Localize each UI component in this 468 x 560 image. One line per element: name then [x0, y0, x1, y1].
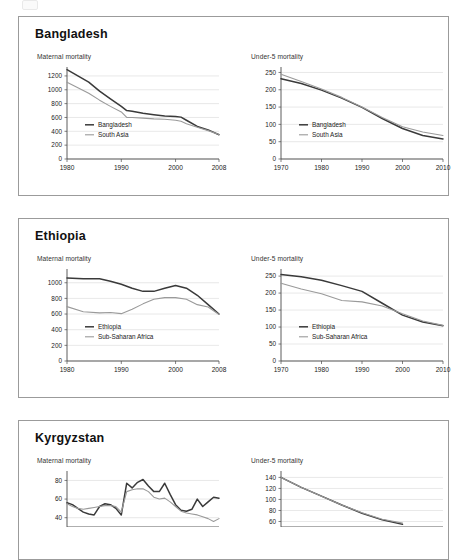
- svg-text:1000: 1000: [48, 86, 63, 93]
- svg-text:200: 200: [265, 289, 276, 296]
- svg-text:60: 60: [269, 518, 277, 525]
- svg-text:120: 120: [265, 485, 276, 492]
- svg-text:800: 800: [51, 100, 62, 107]
- chart-under5-mortality: Under-5 mortality 0501001502002501970198…: [249, 53, 454, 181]
- chart-caption: Maternal mortality: [37, 457, 230, 464]
- svg-text:100: 100: [265, 323, 276, 330]
- svg-text:250: 250: [265, 272, 276, 279]
- svg-text:140: 140: [265, 474, 276, 481]
- svg-text:South Asia: South Asia: [98, 131, 129, 138]
- svg-text:2000: 2000: [395, 164, 410, 171]
- svg-text:1970: 1970: [274, 164, 289, 171]
- svg-text:50: 50: [269, 138, 277, 145]
- chart-canvas: 6080100120140: [249, 467, 454, 527]
- svg-text:2000: 2000: [395, 366, 410, 373]
- svg-text:Ethiopia: Ethiopia: [312, 323, 336, 331]
- svg-text:Bangladesh: Bangladesh: [312, 121, 346, 129]
- svg-text:1990: 1990: [355, 366, 370, 373]
- svg-text:150: 150: [265, 306, 276, 313]
- svg-text:200: 200: [265, 86, 276, 93]
- svg-text:1000: 1000: [48, 279, 63, 286]
- svg-text:400: 400: [51, 326, 62, 333]
- svg-text:1990: 1990: [114, 366, 129, 373]
- panel-title: Kyrgyzstan: [35, 431, 104, 445]
- svg-text:400: 400: [51, 128, 62, 135]
- svg-text:0: 0: [58, 357, 62, 364]
- svg-text:1200: 1200: [48, 72, 63, 79]
- chart-maternal-mortality: Maternal mortality 406080: [35, 457, 230, 527]
- svg-text:100: 100: [265, 121, 276, 128]
- svg-text:2000: 2000: [168, 164, 183, 171]
- svg-text:1980: 1980: [60, 366, 75, 373]
- svg-text:2008: 2008: [212, 366, 227, 373]
- svg-text:1990: 1990: [355, 164, 370, 171]
- svg-text:80: 80: [269, 507, 277, 514]
- svg-text:Sub-Saharan Africa: Sub-Saharan Africa: [312, 333, 368, 340]
- svg-text:2000: 2000: [168, 366, 183, 373]
- svg-text:1990: 1990: [114, 164, 129, 171]
- svg-text:250: 250: [265, 69, 276, 76]
- chart-under5-mortality: Under-5 mortality 6080100120140: [249, 457, 454, 527]
- svg-text:2010: 2010: [436, 164, 451, 171]
- svg-text:0: 0: [272, 155, 276, 162]
- svg-text:60: 60: [55, 495, 63, 502]
- panel-title: Ethiopia: [35, 229, 86, 243]
- svg-text:1980: 1980: [60, 164, 75, 171]
- country-panel-kyrgyzstan: Kyrgyzstan Maternal mortality 406080 Und…: [18, 420, 449, 560]
- svg-text:1970: 1970: [274, 366, 289, 373]
- svg-text:200: 200: [51, 141, 62, 148]
- page-top-clipped-mark: [22, 0, 38, 10]
- chart-caption: Under-5 mortality: [251, 457, 454, 464]
- svg-text:40: 40: [55, 514, 63, 521]
- svg-text:2010: 2010: [436, 366, 451, 373]
- svg-text:1980: 1980: [314, 164, 329, 171]
- svg-text:80: 80: [55, 477, 63, 484]
- panel-title: Bangladesh: [35, 27, 108, 41]
- chart-canvas: 05010015020025019701980199020002010Ethio…: [249, 265, 454, 383]
- svg-text:0: 0: [58, 155, 62, 162]
- svg-text:600: 600: [51, 114, 62, 121]
- svg-text:600: 600: [51, 310, 62, 317]
- chart-maternal-mortality: Maternal mortality 020040060080010001200…: [35, 53, 230, 181]
- chart-canvas: 0200400600800100012001980199020002008Ban…: [35, 63, 230, 181]
- svg-text:150: 150: [265, 103, 276, 110]
- svg-text:2008: 2008: [212, 164, 227, 171]
- chart-caption: Under-5 mortality: [251, 53, 454, 60]
- svg-text:Ethiopia: Ethiopia: [98, 323, 122, 331]
- svg-text:South Asia: South Asia: [312, 131, 343, 138]
- chart-under5-mortality: Under-5 mortality 0501001502002501970198…: [249, 255, 454, 383]
- svg-text:800: 800: [51, 295, 62, 302]
- chart-caption: Under-5 mortality: [251, 255, 454, 262]
- chart-canvas: 406080: [35, 467, 230, 527]
- svg-text:200: 200: [51, 342, 62, 349]
- svg-text:1980: 1980: [314, 366, 329, 373]
- chart-caption: Maternal mortality: [37, 255, 230, 262]
- svg-text:Sub-Saharan Africa: Sub-Saharan Africa: [98, 333, 154, 340]
- svg-text:0: 0: [272, 357, 276, 364]
- svg-text:Bangladesh: Bangladesh: [98, 121, 132, 129]
- svg-text:100: 100: [265, 496, 276, 503]
- svg-text:50: 50: [269, 340, 277, 347]
- chart-canvas: 05010015020025019701980199020002010Bangl…: [249, 63, 454, 181]
- country-panel-ethiopia: Ethiopia Maternal mortality 020040060080…: [18, 218, 449, 398]
- chart-maternal-mortality: Maternal mortality 020040060080010001980…: [35, 255, 230, 383]
- chart-canvas: 020040060080010001980199020002008Ethiopi…: [35, 265, 230, 383]
- chart-caption: Maternal mortality: [37, 53, 230, 60]
- country-panel-bangladesh: Bangladesh Maternal mortality 0200400600…: [18, 16, 449, 196]
